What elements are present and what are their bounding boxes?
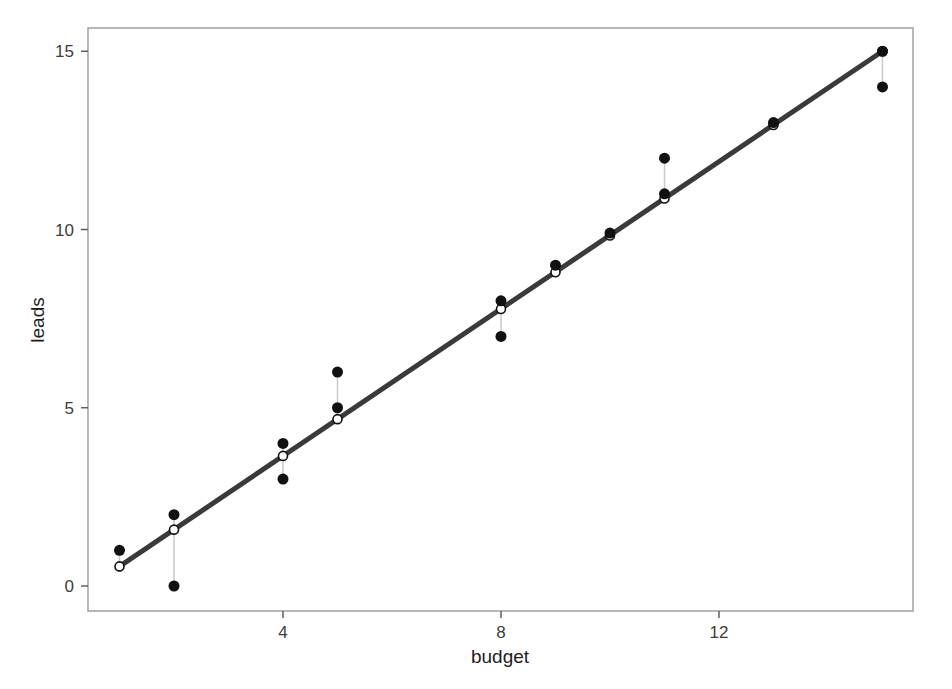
x-tick-label: 4 xyxy=(278,623,287,642)
data-point-marker xyxy=(877,81,888,92)
data-point-marker xyxy=(278,438,289,449)
regression-scatter-figure: 051015 4812 budget leads xyxy=(0,0,952,689)
x-axis-title: budget xyxy=(471,646,530,667)
data-point-marker xyxy=(169,581,180,592)
data-point-marker xyxy=(278,474,289,485)
fitted-point-marker xyxy=(115,562,124,571)
y-tick-label: 15 xyxy=(55,42,74,61)
x-tick-label: 12 xyxy=(710,623,729,642)
y-tick-label: 0 xyxy=(65,577,74,596)
data-point-marker xyxy=(877,46,888,57)
data-point-marker xyxy=(496,295,507,306)
fitted-point-marker xyxy=(279,451,288,460)
plot-canvas: 051015 4812 budget leads xyxy=(0,0,952,689)
data-point-marker xyxy=(496,331,507,342)
y-tick-label: 10 xyxy=(55,221,74,240)
data-point-marker xyxy=(169,509,180,520)
data-point-marker xyxy=(114,545,125,556)
data-point-marker xyxy=(768,117,779,128)
data-point-marker xyxy=(659,153,670,164)
fitted-point-marker xyxy=(333,415,342,424)
x-tick-label: 8 xyxy=(496,623,505,642)
data-point-marker xyxy=(605,228,616,239)
data-point-marker xyxy=(332,402,343,413)
y-axis-title: leads xyxy=(27,297,48,342)
data-point-marker xyxy=(659,188,670,199)
fitted-point-marker xyxy=(170,525,179,534)
data-point-marker xyxy=(332,367,343,378)
data-point-marker xyxy=(550,260,561,271)
y-tick-label: 5 xyxy=(65,399,74,418)
